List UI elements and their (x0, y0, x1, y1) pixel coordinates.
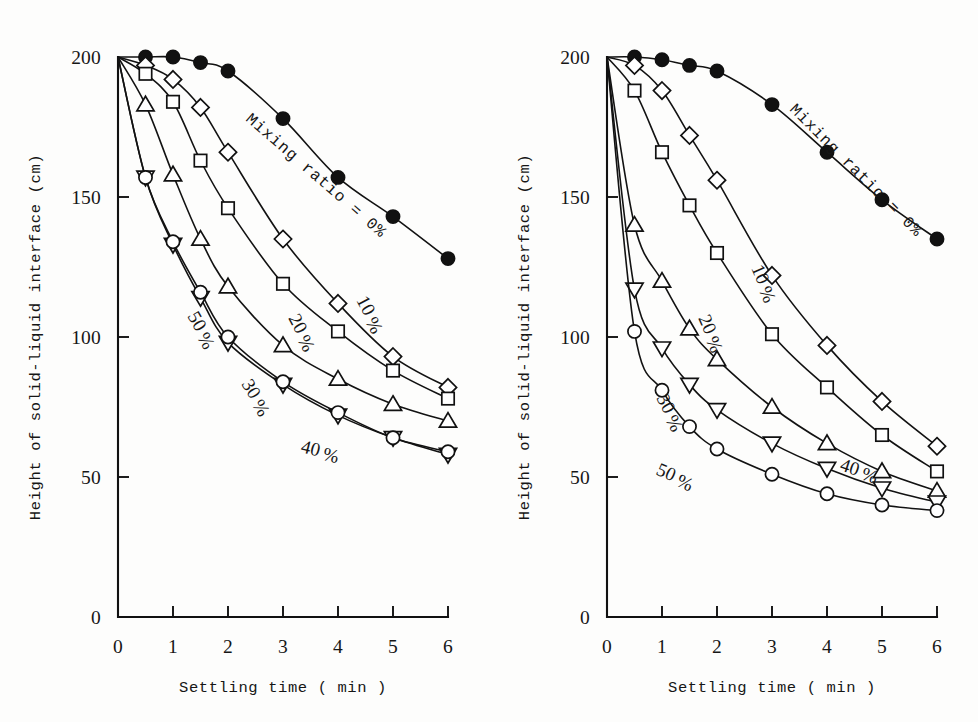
data-point-circle (710, 442, 723, 455)
data-point-circle (139, 171, 152, 184)
y-tick-label: 200 (71, 47, 101, 68)
markers-20pct (139, 68, 454, 405)
x-tick-label: 0 (113, 636, 123, 657)
y-tick-label: 200 (560, 47, 590, 68)
data-point-square (442, 392, 454, 404)
data-point-circle (386, 431, 399, 444)
chart-svg-right: 0501001502000123456Settling time ( min )… (489, 0, 978, 722)
x-tick-label: 1 (657, 636, 667, 657)
data-point-square (656, 146, 668, 158)
data-point-circle (276, 375, 289, 388)
y-tick-label: 50 (570, 467, 590, 488)
data-point-triangle-up (928, 483, 945, 498)
data-point-filled-circle (221, 64, 234, 77)
series-label-percent: % (362, 313, 388, 337)
y-tick-label: 50 (81, 467, 101, 488)
data-point-triangle-up (137, 96, 154, 111)
series-label-percent: % (702, 333, 728, 356)
series-label-number: 40 (299, 436, 323, 461)
data-point-diamond (708, 172, 725, 189)
series-label-percent: % (294, 331, 320, 355)
data-point-triangle-up (164, 166, 181, 181)
data-point-triangle-up (653, 273, 670, 288)
data-point-square (277, 278, 289, 290)
figure-container: 0501001502000123456Settling time ( min )… (0, 0, 978, 722)
y-tick-label: 150 (71, 187, 101, 208)
chart-panel-right: 0501001502000123456Settling time ( min )… (489, 0, 978, 722)
x-tick-label: 0 (602, 636, 612, 657)
chart-svg-left: 0501001502000123456Settling time ( min )… (0, 0, 489, 722)
data-point-filled-circle (930, 232, 943, 245)
markers-30pct (137, 96, 457, 427)
data-point-circle (331, 406, 344, 419)
data-point-triangle-down (708, 404, 725, 419)
chart-panel-left: 0501001502000123456Settling time ( min )… (0, 0, 489, 722)
series-label-percent: % (662, 411, 688, 435)
mixing-ratio-annotation: Mixing ratio = 0% (785, 101, 925, 241)
x-tick-label: 2 (712, 636, 722, 657)
data-point-diamond (164, 71, 181, 88)
data-point-triangle-up (626, 217, 643, 232)
data-point-square (167, 96, 179, 108)
x-tick-label: 6 (443, 636, 453, 657)
data-point-diamond (928, 438, 945, 455)
x-axis-title: Settling time ( min ) (668, 679, 876, 697)
data-point-triangle-down (763, 437, 780, 452)
data-point-diamond (192, 99, 209, 116)
data-point-square (683, 199, 695, 211)
data-point-filled-circle (441, 252, 454, 265)
data-point-circle (820, 487, 833, 500)
x-tick-label: 2 (223, 636, 233, 657)
data-point-square (332, 325, 344, 337)
x-tick-label: 4 (333, 636, 343, 657)
mixing-ratio-annotation: Mixing ratio = 0% (242, 110, 390, 242)
series-label-number: 40 (838, 454, 863, 480)
data-point-circle (166, 235, 179, 248)
data-point-filled-circle (386, 210, 399, 223)
series-label-50pct: 50% (182, 308, 221, 353)
x-tick-label: 5 (388, 636, 398, 657)
series-label-50pct: 50% (653, 458, 698, 495)
data-point-diamond (219, 144, 236, 161)
data-point-triangle-down (653, 342, 670, 357)
data-point-triangle-up (384, 396, 401, 411)
data-point-square (222, 202, 234, 214)
series-label-40pct: 40% (299, 436, 342, 468)
data-point-square (931, 465, 943, 477)
data-point-triangle-up (763, 399, 780, 414)
data-point-circle (221, 330, 234, 343)
data-point-diamond (681, 127, 698, 144)
y-tick-label: 100 (560, 327, 590, 348)
data-point-triangle-up (818, 435, 835, 450)
y-axis-title: Height of solid-liquid interface (cm) (516, 154, 534, 520)
data-point-square (194, 154, 206, 166)
data-point-triangle-up (219, 278, 236, 293)
data-point-filled-circle (765, 98, 778, 111)
series-label-10pct: 10% (351, 292, 390, 337)
x-axis-title: Settling time ( min ) (179, 679, 387, 697)
data-point-circle (628, 325, 641, 338)
data-point-circle (194, 286, 207, 299)
data-point-circle (930, 504, 943, 517)
data-point-circle (441, 445, 454, 458)
data-point-square (139, 68, 151, 80)
x-tick-label: 1 (168, 636, 178, 657)
data-point-filled-circle (710, 64, 723, 77)
plot-area-left: 0501001502000123456Settling time ( min )… (27, 47, 457, 697)
data-point-square (876, 429, 888, 441)
x-tick-label: 5 (877, 636, 887, 657)
series-label-percent: % (321, 443, 342, 467)
series-label-percent: % (193, 328, 219, 352)
y-tick-label: 0 (91, 607, 101, 628)
x-tick-label: 3 (767, 636, 777, 657)
series-label-percent: % (674, 470, 697, 496)
data-point-triangle-up (681, 320, 698, 335)
data-point-filled-circle (655, 53, 668, 66)
data-point-diamond (274, 230, 291, 247)
mixing-ratio-text: Mixing ratio = 0% (785, 101, 925, 241)
series-label-30pct: 30% (236, 375, 276, 420)
markers-30pct (626, 217, 946, 498)
data-point-circle (875, 498, 888, 511)
series-label-number: 20 (694, 311, 721, 337)
data-point-triangle-up (329, 371, 346, 386)
